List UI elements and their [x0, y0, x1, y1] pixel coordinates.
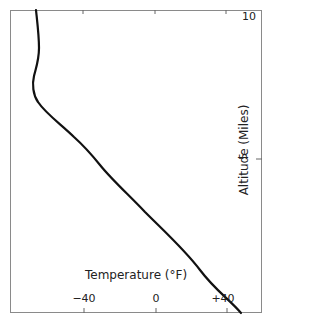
x-tick-label-0: 0 — [153, 292, 160, 305]
x-tick-label-neg40: −40 — [72, 292, 95, 305]
x-tick-label-pos40: +40 — [211, 292, 234, 305]
y-tick-label-10: 10 — [242, 10, 256, 23]
y-axis-label: Altitude (Miles) — [237, 105, 251, 196]
x-axis-label: Temperature (°F) — [85, 268, 187, 282]
y-tick-label-5: 5 — [237, 153, 250, 160]
